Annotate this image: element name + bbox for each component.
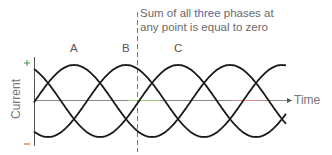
phase-label-a: A bbox=[70, 42, 78, 54]
caption-highlight: three bbox=[194, 7, 220, 19]
caption-text: Sum of all bbox=[140, 7, 194, 19]
time-axis-arrow-icon bbox=[287, 98, 292, 103]
caption: Sum of all three phases at any point is … bbox=[140, 6, 274, 34]
phase-label-b: B bbox=[122, 42, 130, 54]
x-axis-label: Time bbox=[294, 93, 320, 107]
phase-label-c: C bbox=[174, 42, 182, 54]
caption-text: phases at bbox=[221, 7, 274, 19]
y-axis-label: Current bbox=[9, 77, 23, 121]
three-phase-diagram: Sum of all three phases at any point is … bbox=[0, 0, 332, 155]
caption-line-2: any point is equal to zero bbox=[140, 20, 274, 34]
